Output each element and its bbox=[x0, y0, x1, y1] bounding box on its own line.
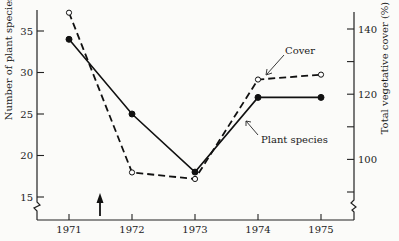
cover-annotation: Cover bbox=[266, 45, 315, 75]
x-tick-label: 1971 bbox=[56, 224, 81, 235]
cover-point bbox=[255, 77, 260, 82]
plant-species-annotation-pointer bbox=[246, 121, 258, 135]
cover-point bbox=[66, 10, 71, 15]
right-y-tick-label: 100 bbox=[358, 154, 377, 165]
left-y-axis-line bbox=[34, 10, 40, 220]
left-y-tick-label: 30 bbox=[20, 67, 33, 78]
left-y-tick-label: 25 bbox=[20, 109, 33, 120]
cover-point bbox=[129, 170, 134, 175]
cover-annotation-pointer bbox=[267, 55, 284, 74]
plant-species-annotation-label: Plant species bbox=[261, 134, 328, 145]
event-arrow-head bbox=[97, 193, 104, 203]
cover-annotation-label: Cover bbox=[285, 45, 315, 56]
series-group bbox=[66, 10, 324, 181]
cover-point bbox=[318, 72, 323, 77]
event-arrow bbox=[97, 193, 104, 216]
x-tick-label: 1973 bbox=[182, 224, 207, 235]
plant-species-point bbox=[318, 94, 324, 100]
left-y-axis-ticks: 1520253035 bbox=[20, 26, 44, 203]
plant-species-point bbox=[255, 94, 261, 100]
left-y-axis-title: Number of plant species bbox=[3, 0, 14, 120]
right-y-tick-label: 140 bbox=[358, 24, 377, 35]
left-y-tick-label: 15 bbox=[20, 192, 33, 203]
right-y-axis-ticks: 100120140 bbox=[347, 24, 377, 193]
right-y-tick-label: 120 bbox=[358, 89, 377, 100]
cover-line bbox=[69, 13, 321, 179]
cover-point bbox=[192, 176, 197, 181]
plant-species-annotation: Plant species bbox=[246, 121, 328, 145]
left-y-tick-label: 35 bbox=[20, 26, 33, 37]
chart: 1520253035 100120140 1971197219731974197… bbox=[0, 0, 399, 241]
x-axis-ticks: 19711972197319741975 bbox=[56, 214, 333, 235]
axes bbox=[34, 10, 356, 220]
plant-species-line bbox=[69, 39, 321, 172]
plant-species-point bbox=[66, 36, 72, 42]
plant-species-point bbox=[192, 169, 198, 175]
right-y-axis-title: Total vegetative cover (%) bbox=[379, 2, 390, 135]
left-y-tick-label: 20 bbox=[20, 150, 33, 161]
x-tick-label: 1975 bbox=[308, 224, 333, 235]
x-tick-label: 1974 bbox=[245, 224, 270, 235]
x-tick-label: 1972 bbox=[119, 224, 144, 235]
plant-species-point bbox=[129, 111, 135, 117]
right-y-axis-line bbox=[351, 12, 356, 220]
